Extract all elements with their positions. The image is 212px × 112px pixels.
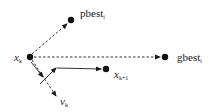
label-gbest: gbesti	[177, 52, 202, 64]
node-xk-dot	[27, 54, 33, 60]
edge-to-xk1	[57, 68, 101, 69]
node-xk1-dot	[103, 66, 109, 72]
label-xk: xk	[14, 52, 22, 64]
label-xk-sub: k	[19, 58, 22, 64]
label-xk1-sub: k+1	[119, 75, 128, 81]
label-pbest-main: pbest	[80, 7, 103, 19]
label-vk-sub: k	[65, 102, 68, 108]
label-gbest-sub: i	[200, 58, 202, 64]
edge-velocity	[32, 60, 56, 96]
edge-inertia	[31, 62, 43, 77]
label-gbest-main: gbest	[177, 51, 200, 63]
label-vk: vk	[60, 96, 68, 108]
pso-diagram: xk pbesti gbesti xk+1 vk	[0, 0, 212, 112]
node-gbest-dot	[162, 54, 168, 60]
label-xk1: xk+1	[114, 69, 128, 81]
label-pbest: pbesti	[80, 8, 105, 20]
node-pbest-dot	[68, 17, 74, 23]
label-pbest-sub: i	[103, 14, 105, 20]
edge-xk-pbest	[32, 24, 67, 54]
